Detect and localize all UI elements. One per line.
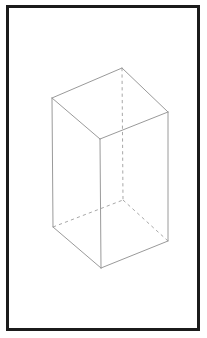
rectangular-prism-drawing xyxy=(0,0,207,338)
prism-faces xyxy=(52,68,168,268)
figure-page xyxy=(0,0,207,338)
